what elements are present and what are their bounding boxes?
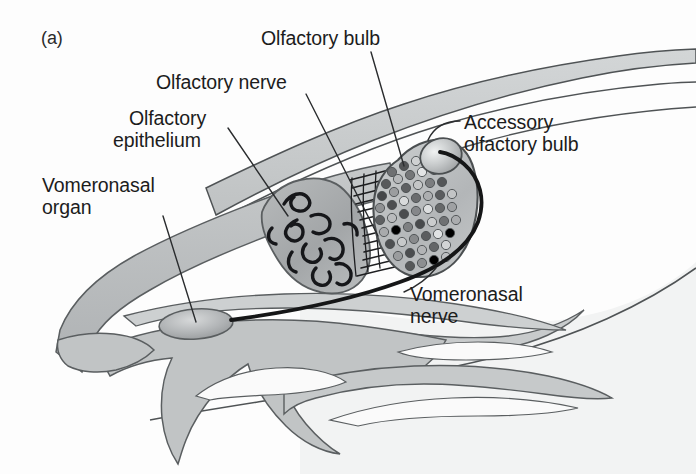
figure-panel: (a) Olfactory bulb Olfactory nerve Olfac… [0,0,696,474]
panel-tag: (a) [41,27,63,50]
label-vomeronasal-organ-line2: organ [42,196,91,219]
anatomy-diagram [0,0,696,474]
label-olfactory-epithelium-line1: Olfactory [129,107,206,130]
label-vomeronasal-nerve-line1: Vomeronasal [410,283,523,306]
leader-accessory-olfactory-bulb [428,121,460,140]
label-accessory-olfactory-bulb-line1: Accessory [464,111,553,134]
label-olfactory-nerve: Olfactory nerve [156,71,287,94]
label-vomeronasal-nerve-line2: nerve [410,305,458,328]
label-olfactory-epithelium-line2: epithelium [113,129,201,152]
label-accessory-olfactory-bulb-line2: olfactory bulb [464,133,579,156]
label-vomeronasal-organ-line1: Vomeronasal [42,174,155,197]
label-olfactory-bulb: Olfactory bulb [261,27,380,50]
